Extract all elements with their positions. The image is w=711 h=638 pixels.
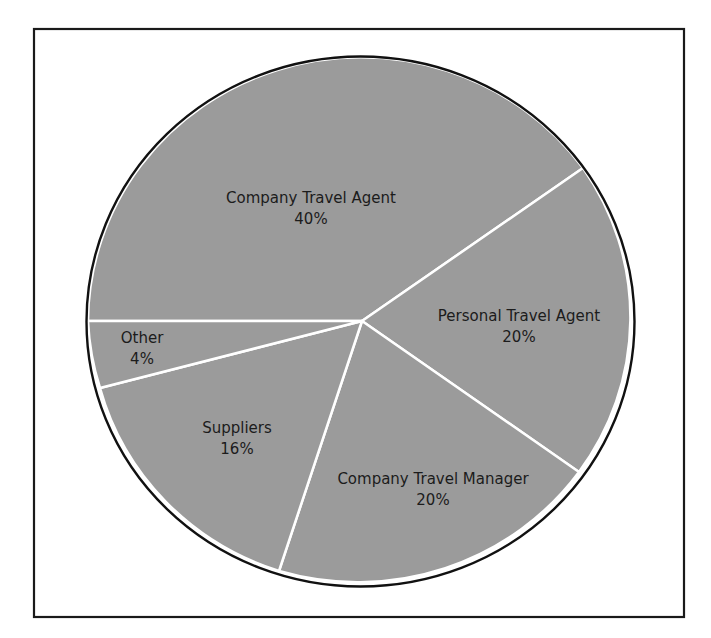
pie-chart: Company Travel Agent 40% Personal Travel… bbox=[0, 0, 711, 638]
value-suppliers: 16% bbox=[220, 440, 253, 458]
label-company-travel-manager: Company Travel Manager bbox=[337, 470, 529, 488]
label-other: Other bbox=[121, 329, 164, 347]
value-personal-travel-agent: 20% bbox=[502, 328, 535, 346]
label-personal-travel-agent: Personal Travel Agent bbox=[438, 307, 600, 325]
value-company-travel-agent: 40% bbox=[294, 210, 327, 228]
value-company-travel-manager: 20% bbox=[416, 491, 449, 509]
label-company-travel-agent: Company Travel Agent bbox=[226, 189, 396, 207]
label-suppliers: Suppliers bbox=[202, 419, 272, 437]
value-other: 4% bbox=[130, 350, 154, 368]
